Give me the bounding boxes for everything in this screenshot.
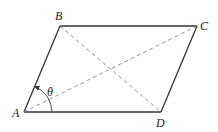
vertex-label-b: B bbox=[55, 9, 63, 23]
diagonal-bd bbox=[60, 26, 161, 112]
parallelogram-diagram: A B C D θ bbox=[0, 0, 218, 132]
vertex-label-d: D bbox=[155, 116, 165, 130]
angle-label-theta: θ bbox=[47, 85, 53, 99]
edge-ab bbox=[24, 26, 60, 112]
vertex-label-a: A bbox=[11, 106, 20, 120]
vertex-label-c: C bbox=[200, 19, 209, 33]
edge-cd bbox=[161, 26, 197, 112]
